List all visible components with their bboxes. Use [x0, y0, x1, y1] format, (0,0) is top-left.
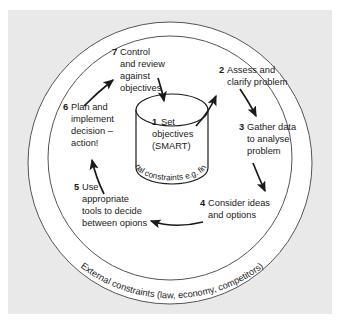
decision-cycle-diagram: 1 Set objectives (SMART) 2 Assess and cl… [0, 0, 340, 322]
